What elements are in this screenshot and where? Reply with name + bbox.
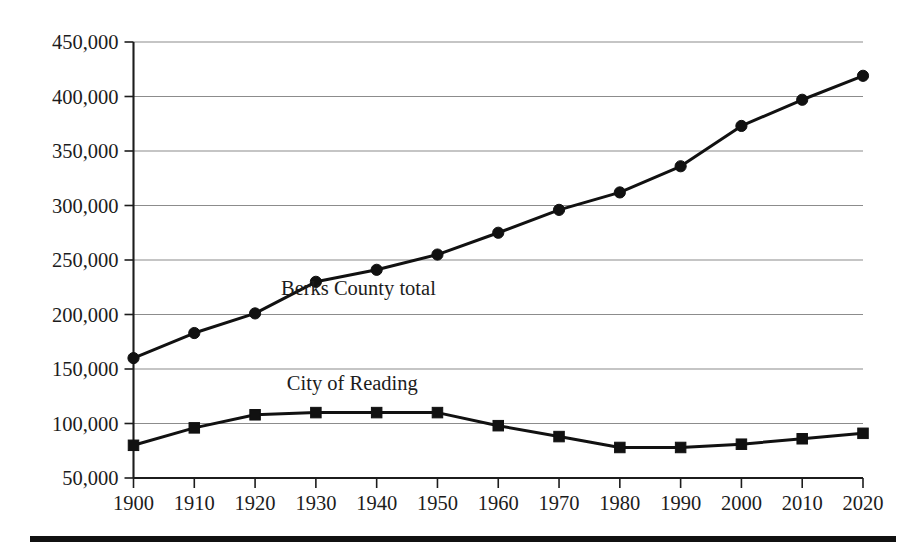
data-point-marker: [493, 420, 504, 431]
x-tick-label: 1920: [235, 492, 276, 514]
data-point-marker: [614, 187, 625, 198]
x-tick-label: 1900: [113, 492, 154, 514]
population-line-chart: 50,000100,000150,000200,000250,000300,00…: [0, 0, 917, 554]
data-point-marker: [432, 407, 443, 418]
data-point-marker: [371, 264, 382, 275]
x-tick-label: 1960: [478, 492, 519, 514]
data-point-marker: [553, 204, 564, 215]
x-tick-label: 1930: [295, 492, 336, 514]
bottom-divider-rule: [30, 536, 896, 542]
data-point-marker: [249, 308, 260, 319]
data-point-marker: [675, 442, 686, 453]
x-tick-label: 1950: [417, 492, 458, 514]
x-tick-label: 1990: [660, 492, 701, 514]
y-axis-tick-labels-group: 50,000100,000150,000200,000250,000300,00…: [52, 31, 119, 489]
y-tick-label: 200,000: [52, 304, 119, 326]
data-point-marker: [857, 70, 868, 81]
y-tick-label: 250,000: [52, 249, 119, 271]
data-point-marker: [189, 423, 200, 434]
y-tick-label: 400,000: [52, 86, 119, 108]
data-point-marker: [432, 249, 443, 260]
y-tick-label: 100,000: [52, 413, 119, 435]
x-tick-label: 1910: [174, 492, 215, 514]
data-point-marker: [797, 94, 808, 105]
chart-figure: 50,000100,000150,000200,000250,000300,00…: [0, 0, 917, 554]
x-tick-label: 2010: [782, 492, 823, 514]
data-point-marker: [493, 227, 504, 238]
data-point-marker: [128, 353, 139, 364]
data-point-marker: [736, 439, 747, 450]
x-tick-label: 1940: [356, 492, 397, 514]
data-point-marker: [189, 327, 200, 338]
y-tick-label: 50,000: [62, 467, 118, 489]
x-tick-label: 1980: [599, 492, 640, 514]
x-tick-label: 2020: [843, 492, 884, 514]
data-point-marker: [675, 161, 686, 172]
y-tick-label: 350,000: [52, 140, 119, 162]
data-point-marker: [250, 410, 260, 421]
chart-background: [0, 0, 917, 554]
y-tick-label: 150,000: [52, 358, 119, 380]
y-tick-label: 300,000: [52, 195, 119, 217]
data-point-marker: [128, 440, 139, 451]
series-label-berks-county-total: Berks County total: [281, 277, 436, 300]
x-tick-label: 2000: [721, 492, 762, 514]
data-point-marker: [858, 428, 869, 439]
data-point-marker: [371, 407, 382, 418]
data-point-marker: [736, 120, 747, 131]
data-point-marker: [797, 434, 808, 445]
y-tick-label: 450,000: [52, 31, 119, 53]
x-tick-label: 1970: [539, 492, 580, 514]
data-point-marker: [311, 407, 322, 418]
data-point-marker: [554, 431, 565, 442]
series-label-city-of-reading: City of Reading: [287, 372, 418, 395]
data-point-marker: [615, 442, 626, 453]
